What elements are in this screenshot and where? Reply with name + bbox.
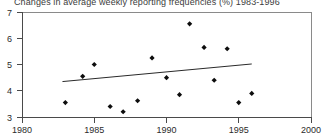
- trend-line: [62, 64, 251, 82]
- data-point: [225, 46, 230, 51]
- data-point: [212, 78, 217, 83]
- data-point: [164, 75, 169, 80]
- data-point: [108, 104, 113, 109]
- data-point: [201, 45, 206, 50]
- y-tick-label-6: 6: [7, 34, 12, 44]
- x-tick-label-1985: 1985: [84, 125, 104, 135]
- data-point: [63, 100, 68, 105]
- scatter-plot: 7 6 5 4 3 1980 1985 1990 1995 2000: [0, 0, 324, 138]
- chart-container: Changes in average weekly reporting freq…: [0, 0, 324, 138]
- data-point: [121, 109, 126, 114]
- data-point: [135, 98, 140, 103]
- data-point: [92, 62, 97, 67]
- data-point: [177, 92, 182, 97]
- data-point-group: [63, 21, 255, 114]
- y-tick-label-4: 4: [7, 86, 12, 96]
- data-point: [80, 74, 85, 79]
- y-axis: 7 6 5 4 3: [7, 8, 22, 123]
- data-point: [187, 21, 192, 26]
- data-point: [236, 100, 241, 105]
- y-tick-label-3: 3: [7, 113, 12, 123]
- trend-line-group: [62, 64, 251, 82]
- y-tick-label-5: 5: [7, 60, 12, 70]
- data-point: [149, 55, 154, 60]
- data-point: [249, 91, 254, 96]
- x-tick-label-1995: 1995: [229, 125, 249, 135]
- x-axis: 1980 1985 1990 1995 2000: [12, 117, 321, 135]
- x-tick-label-1980: 1980: [12, 125, 32, 135]
- x-tick-label-2000: 2000: [301, 125, 321, 135]
- y-tick-label-7: 7: [7, 8, 12, 18]
- x-tick-label-1990: 1990: [156, 125, 176, 135]
